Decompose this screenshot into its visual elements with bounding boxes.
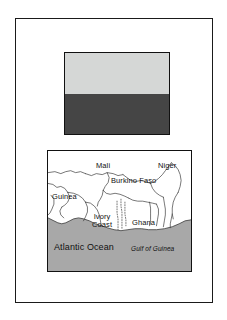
- landmass-fill: [48, 151, 191, 231]
- flag-of-ghana-grayscale: [64, 52, 170, 135]
- flag-top-band: [65, 53, 169, 94]
- flag-bottom-band: [65, 94, 169, 135]
- west-africa-map: Mali Niger Burkino Faso Guinea Ivory Coa…: [47, 150, 192, 272]
- map-graphic: [48, 151, 191, 271]
